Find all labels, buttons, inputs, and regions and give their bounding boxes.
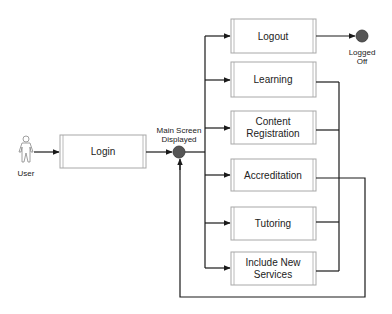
logout-label: Logout [258, 31, 289, 42]
option-box-tutoring: Tutoring [231, 207, 316, 240]
accreditation-label: Accreditation [244, 170, 302, 181]
user-actor-icon [19, 136, 33, 162]
end-node-icon [356, 30, 368, 42]
learning-label: Learning [254, 74, 293, 85]
include-new-services-label-line1: Include New [245, 257, 301, 268]
option-box-learning: Learning [231, 62, 316, 97]
end-label-line1: Logged [349, 48, 376, 57]
option-box-logout: Logout [231, 19, 316, 53]
end-label-line2: Off [357, 57, 368, 66]
option-box-content-registration: Content Registration [231, 111, 316, 144]
option-box-accreditation: Accreditation [231, 159, 316, 191]
content-registration-label-line2: Registration [246, 128, 299, 139]
include-new-services-label-line2: Services [254, 269, 292, 280]
login-box: Login [60, 135, 146, 168]
hub-node-icon [173, 146, 185, 158]
hub-label-line2: Displayed [161, 135, 196, 144]
option-box-include-new-services: Include New Services [231, 252, 316, 285]
inner-return-lines [316, 82, 339, 271]
content-registration-label-line1: Content [255, 116, 290, 127]
user-label: User [18, 169, 35, 178]
flow-diagram: User Login Main Screen Displayed Logout … [0, 0, 392, 314]
login-label: Login [91, 146, 115, 157]
hub-label-line1: Main Screen [157, 126, 202, 135]
tutoring-label: Tutoring [255, 218, 291, 229]
